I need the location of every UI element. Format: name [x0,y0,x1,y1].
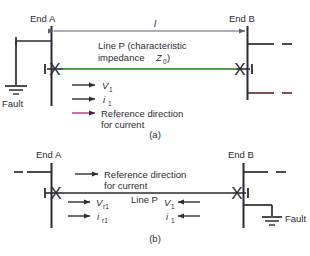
voltage-subscript-right-b: 1 [171,203,175,210]
line-p-caption-line1: Line P (characteristic [98,40,187,51]
end-a-label-b: End A [36,149,62,160]
fault-label-b: Fault [285,213,306,224]
voltage-subscript-a: 1 [109,86,113,93]
fault-label-a: Fault [2,98,23,109]
reference-label-a-line1: Reference direction [101,108,183,119]
current-subscript-left-b: r1 [102,217,108,224]
transmission-line-fault-figure: End A End B l Fault X X [0,0,310,256]
end-b-label-a: End B [229,13,255,24]
circuit-breaker-end-a-b: X [50,184,61,203]
current-subscript-right-b: 1 [171,217,175,224]
circuit-breaker-end-a: X [49,60,60,79]
end-a-label-a: End A [30,13,56,24]
impedance-word: impedance [98,52,144,63]
circuit-breaker-end-b-b: X [231,184,242,203]
line-p-label-b: Line P [131,194,158,205]
reference-label-b-line2: for current [104,180,148,191]
reference-label-a-line2: for current [101,119,145,130]
voltage-subscript-left-b: r1 [103,203,109,210]
z-symbol: Z [155,52,163,63]
paren-close: ) [167,52,170,63]
end-b-label-b: End B [228,149,254,160]
caption-a: (a) [149,129,161,140]
current-subscript-a: 1 [108,100,112,107]
circuit-breaker-end-b: X [234,60,245,79]
caption-b: (b) [149,233,161,244]
reference-label-b-line1: Reference direction [104,169,186,180]
